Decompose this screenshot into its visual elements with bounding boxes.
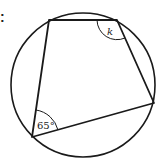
cyclic-quadrilateral-diagram: k 65° [0, 0, 160, 163]
angle-label-65: 65° [37, 120, 55, 131]
angle-label-k: k [107, 26, 113, 37]
